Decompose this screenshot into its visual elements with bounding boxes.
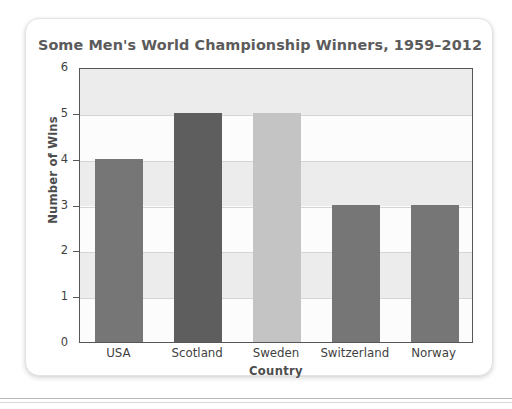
chart-card: Some Men's World Championship Winners, 1… [25,18,493,376]
x-axis-tick-label: USA [79,346,158,360]
y-axis-tick-label: 6 [61,60,68,74]
x-axis-tick-label: Sweden [237,346,316,360]
x-axis-tick-label: Scotland [158,346,237,360]
y-axis-tick-label: 3 [61,198,68,212]
bar [95,159,143,342]
y-axis-tick-label: 2 [61,243,68,257]
x-axis-tick-label: Norway [394,346,473,360]
chart-title: Some Men's World Championship Winners, 1… [26,37,494,53]
bar [332,205,380,343]
y-axis-tick-label: 0 [61,335,68,349]
background-band [80,69,472,115]
x-axis-title: Country [79,364,473,378]
bar [174,113,222,342]
y-axis-tick-label: 4 [61,152,68,166]
bar [253,113,301,342]
y-axis-tick-label: 5 [61,106,68,120]
y-axis-title: Number of Wins [46,80,60,260]
page-divider [0,398,512,399]
page-divider-secondary [0,402,512,403]
bar [411,205,459,343]
x-axis-tick-label: Switzerland [315,346,394,360]
x-axis-tick-labels: USAScotlandSwedenSwitzerlandNorway [79,346,473,364]
y-axis-tick-label: 1 [61,289,68,303]
plot-area [79,68,473,343]
